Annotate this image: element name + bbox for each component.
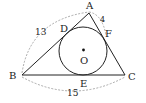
label-e: E <box>80 78 87 89</box>
length-ab: 13 <box>35 27 47 37</box>
label-d: D <box>60 23 68 34</box>
incircle-diagram: A B C D E F O 13 4 15 <box>0 0 146 103</box>
label-b: B <box>9 70 16 81</box>
label-o: O <box>80 55 88 66</box>
label-c: C <box>128 71 136 82</box>
triangle-abc <box>22 13 125 75</box>
length-af: 4 <box>100 15 105 24</box>
label-f: F <box>105 28 112 39</box>
center-point-o <box>82 49 85 52</box>
arc-ab <box>22 12 89 73</box>
length-bc: 15 <box>67 88 79 98</box>
label-a: A <box>85 0 94 11</box>
